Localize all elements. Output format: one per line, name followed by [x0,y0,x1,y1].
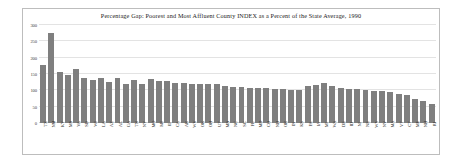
bar [346,89,352,123]
bar-slot [213,25,221,123]
bar-slot [419,25,427,123]
bar [65,75,71,123]
x-label-slot: GA [122,123,130,151]
x-label-slot: CT [403,123,411,151]
bar-slot [386,25,394,123]
x-label-slot: ID [345,123,353,151]
x-label-slot: SD [80,123,88,151]
y-axis-tick-label: 150 [30,72,37,77]
bar [123,84,129,123]
x-label-slot: MO [146,123,154,151]
x-axis-labels: TXNMKYMSVASDWILAAZALGATNNYMOMIILCAARWVOK… [39,123,436,151]
bar-slot [328,25,336,123]
bar [48,33,54,123]
bar [181,83,187,123]
bar [214,84,220,123]
x-label-slot: DE [337,123,345,151]
bar [98,78,104,123]
x-label-slot: SC [237,123,245,151]
x-label-slot: IA [312,123,320,151]
y-axis-tick-label: 50 [33,104,37,109]
bar-slot [113,25,121,123]
bar-slot [361,25,369,123]
bar-slot [229,25,237,123]
bar-slot [171,25,179,123]
bar [164,81,170,123]
bar-slot [80,25,88,123]
plot-area: 050100150200250300 [39,25,436,123]
bar-slot [89,25,97,123]
x-label-slot: KS [295,123,303,151]
bar-slot [47,25,55,123]
x-label-slot: MA [386,123,394,151]
bar [420,101,426,123]
bar-slot [427,25,435,123]
bar-slot [64,25,72,123]
bar [313,85,319,123]
x-label-slot: NH [419,123,427,151]
bar [354,89,360,123]
bar [429,104,435,123]
bar-slot [337,25,345,123]
y-axis-tick-label: 250 [30,39,37,44]
bar [329,86,335,123]
x-label-slot: KY [56,123,64,151]
x-label-slot: NM [47,123,55,151]
x-axis-tick-label: RI [432,122,437,126]
bar-slot [254,25,262,123]
bar-slot [411,25,419,123]
bar [263,88,269,123]
bar [321,83,327,123]
x-label-slot: AL [113,123,121,151]
bar-series [39,25,436,123]
bar-slot [295,25,303,123]
x-label-slot: WA [328,123,336,151]
x-label-slot: NE [361,123,369,151]
x-label-slot: OK [196,123,204,151]
x-label-slot: IN [287,123,295,151]
bar [288,90,294,123]
x-label-slot: CA [171,123,179,151]
y-axis-tick-label: 0 [35,121,37,126]
bar-slot [270,25,278,123]
x-label-slot: IL [163,123,171,151]
bar-slot [320,25,328,123]
x-label-slot: CO [262,123,270,151]
x-label-slot: NV [378,123,386,151]
bar-slot [163,25,171,123]
bar-slot [246,25,254,123]
bar [189,84,195,123]
bar [90,80,96,123]
x-label-slot: WI [89,123,97,151]
bar-slot [378,25,386,123]
x-label-slot: MN [221,123,229,151]
x-label-slot: MS [64,123,72,151]
bar-slot [304,25,312,123]
x-label-slot: TX [39,123,47,151]
bar [115,78,121,123]
x-label-slot: NC [229,123,237,151]
bar-slot [122,25,130,123]
bar-slot [262,25,270,123]
bar-slot [180,25,188,123]
x-label-slot: MT [320,123,328,151]
bar-slot [237,25,245,123]
x-label-slot: UT [213,123,221,151]
x-label-slot: NY [138,123,146,151]
bar [379,91,385,123]
bar [280,89,286,123]
bar [131,80,137,123]
x-label-slot: OR [279,123,287,151]
bar-slot [279,25,287,123]
bar-slot [370,25,378,123]
bar [272,89,278,123]
x-label-slot: WY [370,123,378,151]
bar [230,87,236,123]
bar [404,95,410,123]
x-label-slot: VA [72,123,80,151]
bar-slot [353,25,361,123]
x-label-slot: FL [246,123,254,151]
bar [197,84,203,123]
x-label-slot: ME [411,123,419,151]
bar-slot [105,25,113,123]
